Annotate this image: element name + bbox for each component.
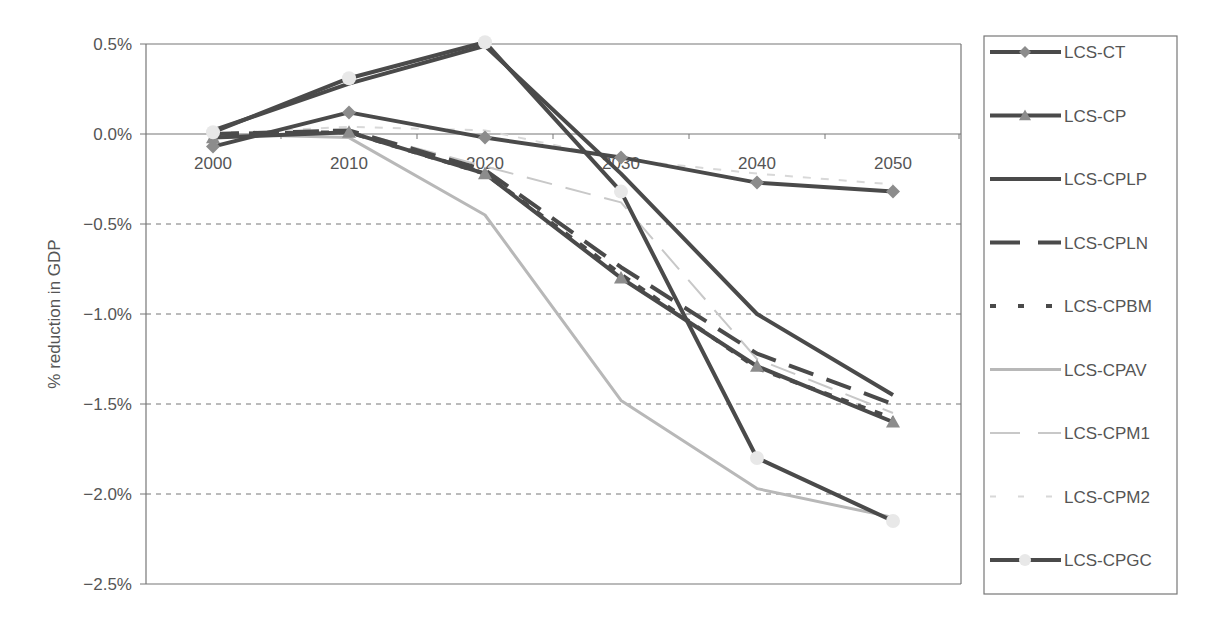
circle-marker <box>1019 554 1031 566</box>
x-tick-label: 2000 <box>194 154 232 173</box>
circle-marker <box>478 35 492 49</box>
y-tick-label: 0.0% <box>93 125 132 144</box>
legend-label: LCS-CPM2 <box>1064 488 1150 507</box>
circle-marker <box>750 451 764 465</box>
series-lcs-cpbm <box>213 132 893 418</box>
series-lcs-cpm1 <box>213 130 893 413</box>
series-line <box>213 42 893 521</box>
x-tick-label: 2040 <box>738 154 776 173</box>
series-line <box>213 132 893 418</box>
y-axis: 0.5%0.0%−0.5%−1.0%−1.5%−2.0%−2.5% <box>83 35 146 594</box>
series-lcs-cp <box>206 125 900 427</box>
x-tick-label: 2050 <box>874 154 912 173</box>
circle-marker <box>886 514 900 528</box>
y-tick-label: −2.5% <box>83 575 132 594</box>
legend-label: LCS-CPBM <box>1064 297 1152 316</box>
y-tick-label: −1.0% <box>83 305 132 324</box>
circle-marker <box>206 125 220 139</box>
legend-label: LCS-CPLN <box>1064 234 1148 253</box>
y-tick-label: 0.5% <box>93 35 132 54</box>
legend-label: LCS-CPLP <box>1064 170 1147 189</box>
legend-label: LCS-CPM1 <box>1064 424 1150 443</box>
legend-label: LCS-CP <box>1064 107 1126 126</box>
legend-label: LCS-CPAV <box>1064 361 1147 380</box>
legend-label: LCS-CPGC <box>1064 551 1152 570</box>
series-line <box>213 134 893 517</box>
y-tick-label: −0.5% <box>83 215 132 234</box>
series-layer <box>206 35 900 528</box>
legend-label: LCS-CT <box>1064 43 1125 62</box>
x-tick-label: 2010 <box>330 154 368 173</box>
legend: LCS-CTLCS-CPLCS-CPLPLCS-CPLNLCS-CPBMLCS-… <box>984 36 1177 594</box>
series-line <box>213 112 893 191</box>
line-chart: 0.5%0.0%−0.5%−1.0%−1.5%−2.0%−2.5% 200020… <box>0 0 1216 621</box>
series-line <box>213 130 893 413</box>
y-tick-label: −1.5% <box>83 395 132 414</box>
diamond-marker <box>342 105 356 119</box>
y-tick-label: −2.0% <box>83 485 132 504</box>
series-lcs-cpav <box>213 134 893 517</box>
diamond-marker <box>750 176 764 190</box>
series-line <box>213 130 893 404</box>
diamond-marker <box>886 185 900 199</box>
diamond-marker <box>478 131 492 145</box>
circle-marker <box>614 185 628 199</box>
y-axis-title: % reduction in GDP <box>45 239 64 388</box>
circle-marker <box>342 71 356 85</box>
series-lcs-cpln <box>213 130 893 404</box>
